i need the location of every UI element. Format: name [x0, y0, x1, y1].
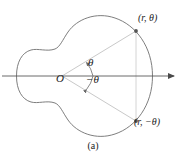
- point-marker-r-theta: [134, 29, 138, 33]
- label-point-r-negative-theta: (r, −θ): [134, 117, 160, 127]
- label-angle-negative-theta: −θ: [86, 74, 99, 85]
- radius-ray-positive-theta: [62, 31, 136, 76]
- radius-ray-negative-theta: [62, 76, 136, 121]
- polar-symmetry-figure: (r, θ) (r, −θ) O θ −θ (a): [0, 0, 186, 162]
- label-point-r-theta: (r, θ): [138, 13, 157, 23]
- label-origin: O: [56, 73, 64, 84]
- label-angle-theta: θ: [88, 57, 93, 68]
- figure-caption: (a): [0, 140, 186, 151]
